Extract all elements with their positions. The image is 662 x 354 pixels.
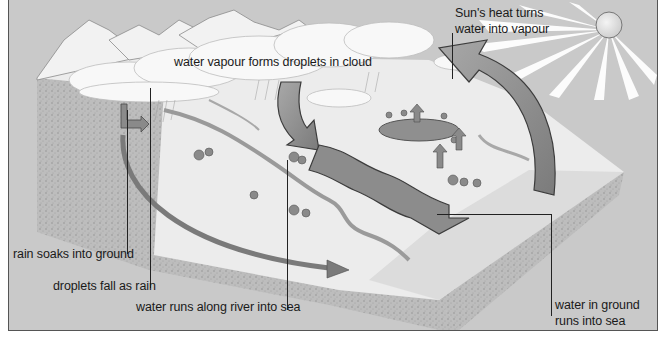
label-river-to-sea: water runs along river into sea	[136, 300, 300, 315]
label-vapour-droplets: water vapour forms droplets in cloud	[174, 55, 372, 70]
label-sun-heat-line2: water into vapour	[455, 22, 549, 37]
leader-ground-to-sea-h	[437, 214, 552, 215]
leader-ground-to-sea-v	[551, 214, 552, 316]
label-rain-soaks: rain soaks into ground	[13, 247, 134, 262]
leader-droplets-fall	[150, 88, 151, 288]
label-ground-to-sea-line2: runs into sea	[555, 314, 625, 329]
label-ground-to-sea-line1: water in ground	[555, 298, 640, 313]
diagram-frame: Sun's heat turns water into vapour water…	[8, 0, 658, 331]
label-droplets-fall: droplets fall as rain	[53, 279, 156, 294]
leader-rain-soaks	[127, 110, 128, 254]
ground-cross-section	[37, 78, 164, 255]
cloud-low	[307, 89, 371, 107]
sun-icon	[596, 12, 622, 38]
label-sun-heat-line1: Sun's heat turns	[455, 6, 543, 21]
leader-sun-heat	[452, 33, 453, 79]
leader-river-to-sea	[287, 160, 288, 310]
